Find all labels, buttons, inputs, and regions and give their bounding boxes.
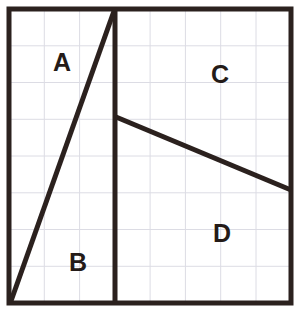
- region-label-c: C: [211, 62, 229, 87]
- region-label-a: A: [53, 50, 71, 75]
- geometry-figure: ABCD: [0, 0, 299, 321]
- grid-lines: [9, 9, 291, 303]
- figure-canvas: [0, 0, 299, 321]
- right-diagonal: [116, 117, 291, 190]
- region-label-b: B: [69, 250, 87, 275]
- region-label-d: D: [213, 221, 231, 246]
